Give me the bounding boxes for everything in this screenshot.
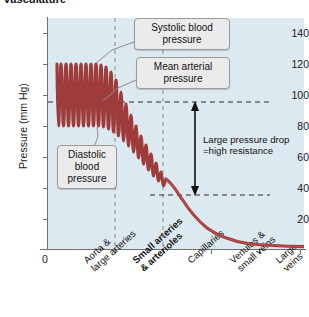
callout-diastolic-line2: blood bbox=[75, 161, 99, 172]
callout-mean-line1: Mean arterial bbox=[154, 61, 212, 72]
callout-diastolic-line1: Diastolic bbox=[68, 149, 106, 160]
callout-systolic-line2: pressure bbox=[163, 34, 202, 45]
figure-root: vasculature 140 120 100 80 60 40 20 Pres… bbox=[0, 0, 309, 317]
annotation-pressure-drop-line1: Large pressure drop bbox=[203, 134, 289, 145]
callout-systolic-blood-pressure[interactable]: Systolic blood pressure bbox=[134, 18, 230, 50]
blood-pressure-curve-highlight bbox=[166, 179, 304, 247]
callout-diastolic-line3: pressure bbox=[68, 173, 107, 184]
callout-diastolic-blood-pressure[interactable]: Diastolic blood pressure bbox=[57, 145, 117, 189]
annotation-pressure-drop-line2: =high resistance bbox=[203, 145, 273, 156]
annotation-pressure-drop: Large pressure drop =high resistance bbox=[203, 134, 303, 156]
callout-mean-arterial-pressure[interactable]: Mean arterial pressure bbox=[136, 57, 230, 89]
callout-systolic-line1: Systolic blood bbox=[151, 22, 213, 33]
callout-mean-line2: pressure bbox=[164, 73, 203, 84]
